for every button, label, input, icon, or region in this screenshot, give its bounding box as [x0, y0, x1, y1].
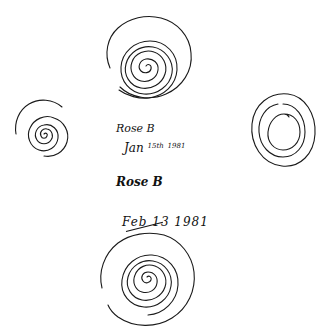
circles-drawing-right — [248, 90, 320, 170]
date-1-year: 1981 — [168, 142, 186, 150]
date-1-month: Jan — [124, 141, 144, 155]
date-1-day: 15th — [148, 142, 164, 150]
spiral-drawing-top — [88, 12, 204, 122]
spiral-drawing-left — [12, 96, 74, 162]
annotation-date-2: Feb 13 1981 — [122, 215, 209, 229]
annotation-date-1: Jan 15th 1981 — [124, 141, 185, 155]
scanned-document-page: Rose B Jan 15th 1981 Rose B Feb 13 1981 — [0, 0, 328, 335]
annotation-name-1: Rose B — [116, 122, 155, 135]
annotation-name-2: Rose B — [116, 175, 163, 189]
spiral-drawing-bottom — [92, 228, 204, 332]
